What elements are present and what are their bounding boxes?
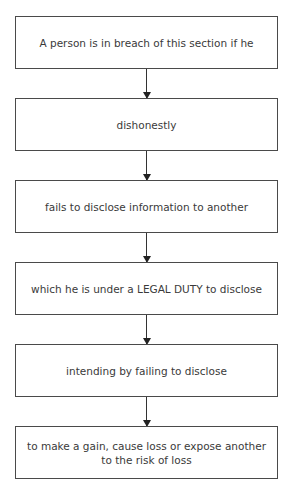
arrow-down-icon (146, 315, 147, 344)
step-label: which he is under a LEGAL DUTY to disclo… (23, 282, 270, 296)
step-label: A person is in breach of this section if… (31, 36, 261, 50)
step-box-6: to make a gain, cause loss or expose ano… (15, 426, 278, 479)
step-box-3: fails to disclose information to another (15, 180, 278, 233)
step-label: intending by failing to disclose (58, 364, 235, 378)
arrow-down-icon (146, 233, 147, 262)
step-box-2: dishonestly (15, 98, 278, 151)
step-box-4: which he is under a LEGAL DUTY to disclo… (15, 262, 278, 315)
step-box-5: intending by failing to disclose (15, 344, 278, 397)
arrow-down-icon (146, 69, 147, 98)
step-label: to make a gain, cause loss or expose ano… (16, 439, 277, 467)
arrow-down-icon (146, 397, 147, 426)
step-label: fails to disclose information to another (37, 200, 256, 214)
step-label: dishonestly (109, 118, 185, 132)
arrow-down-icon (146, 151, 147, 180)
step-box-1: A person is in breach of this section if… (15, 16, 278, 69)
